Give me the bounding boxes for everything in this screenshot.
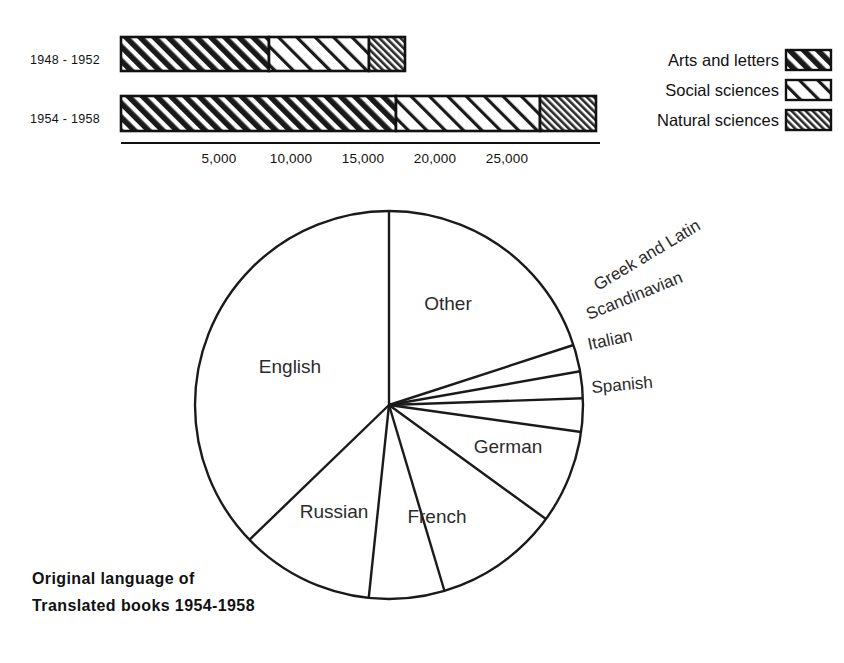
pie-label-russian: Russian	[300, 501, 369, 522]
pie-label-french: French	[407, 506, 466, 527]
pie-chart-group: Other English Russian French German Gree…	[195, 211, 704, 599]
bar-row-1954-1958	[121, 96, 596, 131]
bar-chart-legend: Arts and letters Social sciences Natural…	[657, 50, 831, 130]
caption-line-1: Original language of	[32, 570, 195, 587]
pie-label-other: Other	[424, 293, 472, 314]
bar-tick-15000: 15,000	[342, 151, 385, 166]
legend-item-arts-and-letters[interactable]: Arts and letters	[668, 50, 831, 70]
bar-segment-arts-1948[interactable]	[121, 37, 269, 71]
bar-category-label-1954-1958: 1954 - 1958	[30, 112, 100, 126]
pie-label-english: English	[259, 356, 321, 377]
bar-segment-natural-1954[interactable]	[540, 96, 596, 131]
legend-item-social-sciences[interactable]: Social sciences	[665, 80, 831, 100]
legend-item-natural-sciences[interactable]: Natural sciences	[657, 110, 831, 130]
bar-chart-group: 1948 - 1952 1954 - 1958 5,000 10,000 15,…	[30, 37, 600, 166]
chart-canvas: 1948 - 1952 1954 - 1958 5,000 10,000 15,…	[0, 0, 844, 663]
social-sciences-swatch	[786, 80, 831, 100]
pie-label-italian: Italian	[586, 326, 634, 354]
bar-row-1948-1952	[121, 37, 405, 71]
bar-segment-social-1954[interactable]	[396, 96, 540, 131]
legend-label-social-sciences: Social sciences	[665, 81, 779, 99]
natural-sciences-swatch	[786, 110, 831, 130]
pie-caption: Original language of Translated books 19…	[32, 570, 255, 614]
pie-label-spanish: Spanish	[591, 373, 654, 397]
bar-segment-natural-1948[interactable]	[369, 37, 405, 71]
legend-label-natural-sciences: Natural sciences	[657, 111, 779, 129]
arts-and-letters-swatch	[786, 50, 831, 70]
legend-label-arts-and-letters: Arts and letters	[668, 51, 779, 69]
bar-category-label-1948-1952: 1948 - 1952	[30, 53, 100, 67]
bar-tick-25000: 25,000	[486, 151, 529, 166]
figure-root: 1948 - 1952 1954 - 1958 5,000 10,000 15,…	[0, 0, 844, 663]
caption-line-2: Translated books 1954-1958	[32, 597, 255, 614]
bar-segment-social-1948[interactable]	[269, 37, 369, 71]
bar-tick-20000: 20,000	[414, 151, 457, 166]
pie-label-german: German	[474, 436, 543, 457]
bar-tick-10000: 10,000	[270, 151, 313, 166]
bar-tick-5000: 5,000	[202, 151, 237, 166]
bar-segment-arts-1954[interactable]	[121, 96, 396, 131]
